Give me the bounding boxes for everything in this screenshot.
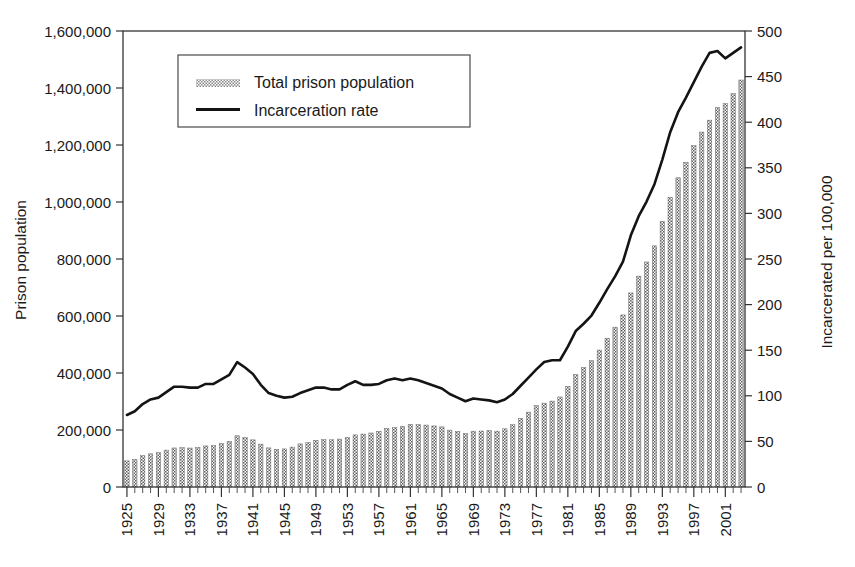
x-axis-tick-label: 1965 — [433, 503, 450, 536]
bar — [400, 426, 404, 487]
left-axis-tick-label: 1,600,000 — [44, 23, 111, 40]
bar — [282, 449, 286, 487]
bar — [479, 431, 483, 487]
bar — [526, 412, 530, 487]
right-axis-tick-label: 50 — [757, 433, 774, 450]
bar — [266, 448, 270, 487]
legend-swatch-line-icon — [196, 108, 240, 111]
legend-swatch-bar-icon — [196, 79, 240, 87]
bar — [140, 456, 144, 487]
bar — [211, 446, 215, 487]
bar — [408, 424, 412, 487]
left-axis-tick-label: 200,000 — [57, 422, 111, 439]
x-axis: 1925192919331937194119451949195319571961… — [118, 487, 741, 536]
bar — [156, 453, 160, 487]
bar — [660, 221, 664, 487]
right-axis-tick-label: 0 — [757, 479, 765, 496]
left-axis-tick-label: 1,200,000 — [44, 137, 111, 154]
x-axis-tick-label: 1977 — [528, 503, 545, 536]
bar — [731, 94, 735, 487]
x-axis-tick-label: 1989 — [622, 503, 639, 536]
bar — [471, 431, 475, 487]
right-axis-tick-label: 100 — [757, 387, 782, 404]
x-axis-tick-label: 1941 — [244, 503, 261, 536]
legend-label-total-prison-population: Total prison population — [254, 74, 414, 91]
bar — [314, 440, 318, 487]
bar — [243, 437, 247, 487]
bar — [148, 454, 152, 487]
bar — [463, 433, 467, 487]
bar — [298, 444, 302, 487]
bar — [581, 367, 585, 487]
bar — [723, 104, 727, 487]
right-axis-tick-label: 350 — [757, 159, 782, 176]
bar — [715, 108, 719, 487]
bar — [196, 448, 200, 487]
bar — [385, 428, 389, 487]
x-axis-tick-label: 1961 — [402, 503, 419, 536]
bar — [605, 338, 609, 487]
bar — [329, 440, 333, 487]
x-axis-tick-label: 1957 — [370, 503, 387, 536]
bar — [440, 427, 444, 487]
bar — [518, 418, 522, 487]
bar — [361, 434, 365, 487]
bar — [534, 406, 538, 487]
bar — [353, 435, 357, 487]
bar — [432, 426, 436, 487]
bar — [180, 448, 184, 487]
x-axis-tick-label: 1933 — [181, 503, 198, 536]
x-axis-tick-label: 1937 — [213, 503, 230, 536]
right-axis-tick-label: 250 — [757, 251, 782, 268]
bar — [511, 425, 515, 487]
bar — [259, 444, 263, 487]
right-axis-tick-label: 400 — [757, 114, 782, 131]
left-axis-title: Prison population — [12, 200, 29, 320]
bar — [707, 120, 711, 487]
bar — [392, 428, 396, 487]
bar — [495, 431, 499, 487]
bar — [306, 443, 310, 487]
bar — [251, 440, 255, 487]
right-axis-tick-label: 150 — [757, 342, 782, 359]
bar — [274, 449, 278, 487]
x-axis-tick-label: 1993 — [654, 503, 671, 536]
legend-label-incarceration-rate: Incarceration rate — [254, 102, 379, 119]
bar — [574, 375, 578, 487]
x-axis-tick-label: 1981 — [559, 503, 576, 536]
bar — [188, 448, 192, 487]
bar — [322, 440, 326, 487]
bar — [621, 315, 625, 487]
x-axis-tick-label: 1973 — [496, 503, 513, 536]
x-axis-tick-label: 1925 — [118, 503, 135, 536]
bar — [550, 401, 554, 487]
bar — [692, 146, 696, 487]
left-axis-tick-label: 0 — [103, 479, 111, 496]
bar — [589, 361, 593, 487]
bar — [668, 197, 672, 487]
bar — [345, 438, 349, 487]
x-axis-tick-label: 1929 — [150, 503, 167, 536]
bar — [133, 459, 137, 487]
bar — [487, 431, 491, 487]
bar — [227, 441, 231, 487]
left-axis-tick-label: 800,000 — [57, 251, 111, 268]
bar — [558, 397, 562, 487]
bar — [699, 132, 703, 487]
bar — [416, 425, 420, 487]
bar — [629, 293, 633, 487]
right-axis: 050100150200250300350400450500 — [745, 23, 782, 496]
left-axis-tick-label: 400,000 — [57, 365, 111, 382]
bar — [684, 162, 688, 487]
bar — [455, 431, 459, 487]
x-axis-tick-label: 2001 — [717, 503, 734, 536]
bar — [644, 262, 648, 487]
dual-axis-chart: 0200,000400,000600,000800,0001,000,0001,… — [0, 0, 855, 567]
x-axis-tick-label: 1997 — [685, 503, 702, 536]
x-axis-tick-label: 1969 — [465, 503, 482, 536]
bar — [503, 429, 507, 487]
bar — [424, 425, 428, 487]
bar — [613, 327, 617, 487]
bar — [597, 350, 601, 487]
bar — [542, 403, 546, 487]
